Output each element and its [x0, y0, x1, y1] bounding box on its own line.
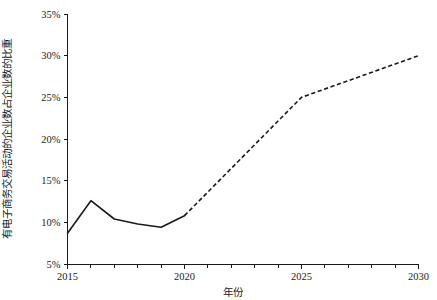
y-axis-ticks: 5%10%15%20%25%30%35%	[41, 9, 67, 270]
series-line-historical	[68, 201, 185, 234]
chart-container: 有电子商务交易活动的企业数占企业数的比重 年份 5%10%15%20%25%30…	[0, 0, 437, 300]
x-tick-label: 2025	[291, 271, 312, 282]
data-series	[68, 56, 419, 234]
y-tick-label: 15%	[41, 175, 61, 186]
y-tick-label: 25%	[41, 92, 61, 103]
x-tick-label: 2015	[57, 271, 78, 282]
x-tick-label: 2020	[174, 271, 195, 282]
x-tick-label: 2030	[408, 271, 429, 282]
series-line-forecast	[185, 56, 419, 216]
x-axis-title: 年份	[223, 286, 244, 298]
y-tick-label: 5%	[47, 259, 61, 270]
y-axis-title-text: 有电子商务交易活动的企业数占企业数的比重	[1, 39, 13, 239]
y-tick-label: 30%	[41, 50, 61, 61]
y-tick-label: 10%	[41, 217, 61, 228]
x-axis-title-text: 年份	[223, 286, 244, 298]
y-tick-label: 20%	[41, 134, 61, 145]
x-axis-ticks: 2015202020252030	[57, 264, 429, 282]
line-chart: 有电子商务交易活动的企业数占企业数的比重 年份 5%10%15%20%25%30…	[0, 0, 437, 300]
y-axis-title: 有电子商务交易活动的企业数占企业数的比重	[1, 39, 13, 239]
y-tick-label: 35%	[41, 9, 61, 20]
axis-lines	[68, 14, 419, 264]
